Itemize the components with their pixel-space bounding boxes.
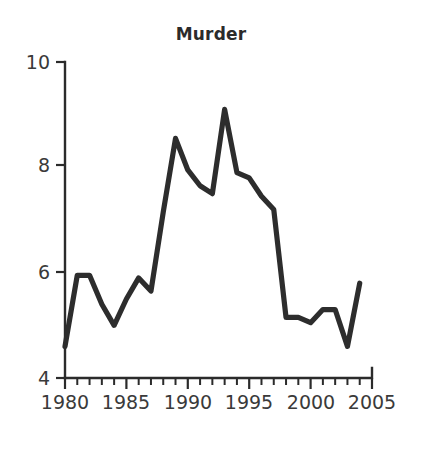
x-axis-ticks bbox=[65, 378, 372, 389]
x-tick-label-1980: 1980 bbox=[41, 391, 89, 413]
y-tick-label-8: 8 bbox=[38, 154, 50, 176]
data-series-line-murder bbox=[65, 109, 360, 346]
y-tick-label-6: 6 bbox=[38, 261, 50, 283]
x-tick-label-2000: 2000 bbox=[287, 391, 335, 413]
x-axis-tick-labels: 1980 1985 1990 1995 2000 2005 bbox=[41, 391, 396, 413]
x-tick-label-2005: 2005 bbox=[348, 391, 396, 413]
y-tick-label-10: 10 bbox=[26, 51, 50, 73]
chart-page: Murder 10 8 6 4 1980 1985 1990 1995 20 bbox=[0, 0, 422, 455]
y-axis-ticks bbox=[56, 62, 65, 378]
x-tick-label-1995: 1995 bbox=[225, 391, 273, 413]
x-tick-label-1990: 1990 bbox=[164, 391, 212, 413]
x-tick-label-1985: 1985 bbox=[102, 391, 150, 413]
x-axis-line bbox=[65, 368, 372, 378]
y-axis-tick-labels: 10 8 6 4 bbox=[26, 51, 50, 389]
line-chart-plot: 10 8 6 4 1980 1985 1990 1995 2000 2005 bbox=[0, 0, 422, 455]
y-tick-label-4: 4 bbox=[38, 367, 50, 389]
